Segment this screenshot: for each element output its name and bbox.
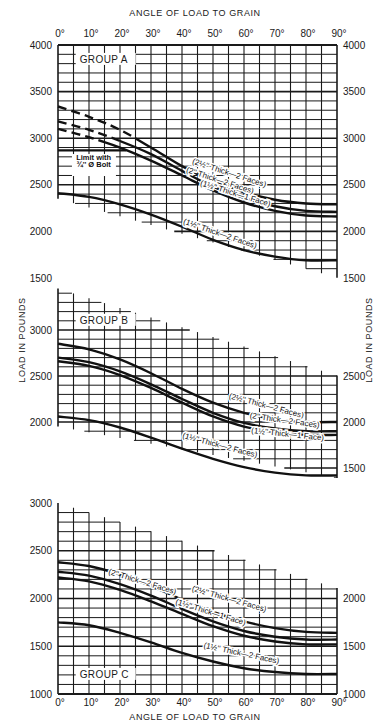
x-tick-top: 60° [238, 28, 253, 39]
x-tick-top: 30° [145, 28, 160, 39]
y-tick-left: 1000 [30, 689, 53, 700]
x-tick-top: 10° [83, 28, 98, 39]
x-tick-bottom: 0° [55, 697, 65, 708]
y-tick-left: 3000 [30, 133, 53, 144]
y-tick-right: 2000 [343, 417, 366, 428]
y-tick-left: 2000 [30, 226, 53, 237]
chart-canvas: 1500150020002000250025003000300035003500… [0, 0, 390, 727]
x-tick-top: 90° [331, 28, 346, 39]
x-tick-bottom: 30° [145, 697, 160, 708]
y-tick-left: 2500 [30, 371, 53, 382]
y-tick-left: 2500 [30, 179, 53, 190]
y-tick-left: 2000 [30, 417, 53, 428]
x-tick-bottom: 10° [83, 697, 98, 708]
panel-group-a: 1500150020002000250025003000300035003500… [30, 40, 366, 284]
group-title: GROUP B [80, 315, 129, 326]
x-tick-top: 80° [300, 28, 315, 39]
x-tick-bottom: 90° [331, 697, 346, 708]
y-tick-right: 1500 [343, 463, 366, 474]
y-tick-left: 3000 [30, 325, 53, 336]
x-tick-bottom: 80° [300, 697, 315, 708]
x-tick-top: 70° [269, 28, 284, 39]
panel-group-b: 150020002000250025003000GROUP B(2½'' Thi… [30, 289, 366, 478]
panel-group-c: 10001000150015002000200025003000GROUP C(… [30, 498, 366, 700]
y-tick-right: 1500 [343, 641, 366, 652]
x-tick-bottom: 70° [269, 697, 284, 708]
y-tick-left: 2000 [30, 593, 53, 604]
curve-label: (1½'' Thick—2 Faces) [181, 431, 258, 460]
group-title: GROUP A [80, 54, 128, 65]
y-tick-left: 2500 [30, 545, 53, 556]
x-tick-bottom: 20° [114, 697, 129, 708]
y-tick-left: 3500 [30, 86, 53, 97]
x-tick-top: 50° [207, 28, 222, 39]
y-tick-right: 2000 [343, 593, 366, 604]
x-tick-top: 40° [176, 28, 191, 39]
x-tick-top: 20° [114, 28, 129, 39]
y-tick-right: 4000 [343, 40, 366, 51]
y-tick-left: 3000 [30, 498, 53, 509]
y-tick-right: 3000 [343, 133, 366, 144]
y-tick-right: 2500 [343, 179, 366, 190]
group-title: GROUP C [80, 669, 129, 680]
y-tick-left: 1500 [30, 273, 53, 284]
x-tick-bottom: 60° [238, 697, 253, 708]
x-tick-bottom: 50° [207, 697, 222, 708]
bolt-limit-label: ¾'' Ø Bolt [76, 160, 111, 169]
y-tick-right: 3500 [343, 86, 366, 97]
y-tick-right: 2500 [343, 371, 366, 382]
y-tick-left: 1500 [30, 641, 53, 652]
x-tick-bottom: 40° [176, 697, 191, 708]
y-tick-right: 2000 [343, 226, 366, 237]
y-tick-right: 1500 [343, 273, 366, 284]
y-tick-left: 4000 [30, 40, 53, 51]
x-tick-top: 0° [55, 28, 65, 39]
